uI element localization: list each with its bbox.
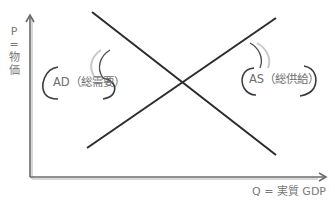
ad-callout-pointer xyxy=(91,50,110,78)
ad-label: AD（総需要） xyxy=(53,77,125,89)
y-label-p: P xyxy=(7,25,21,38)
y-label-equals: = xyxy=(7,38,21,51)
as-callout-pointer xyxy=(250,43,269,68)
y-axis-label: P = 物 価 xyxy=(7,25,21,77)
ad-as-diagram xyxy=(0,0,335,207)
as-label: AS（総供給） xyxy=(249,74,319,86)
y-label-char2: 価 xyxy=(7,64,21,77)
y-label-char1: 物 xyxy=(7,51,21,64)
axes xyxy=(26,15,326,181)
x-axis-label: Q = 実質 GDP xyxy=(252,186,326,197)
